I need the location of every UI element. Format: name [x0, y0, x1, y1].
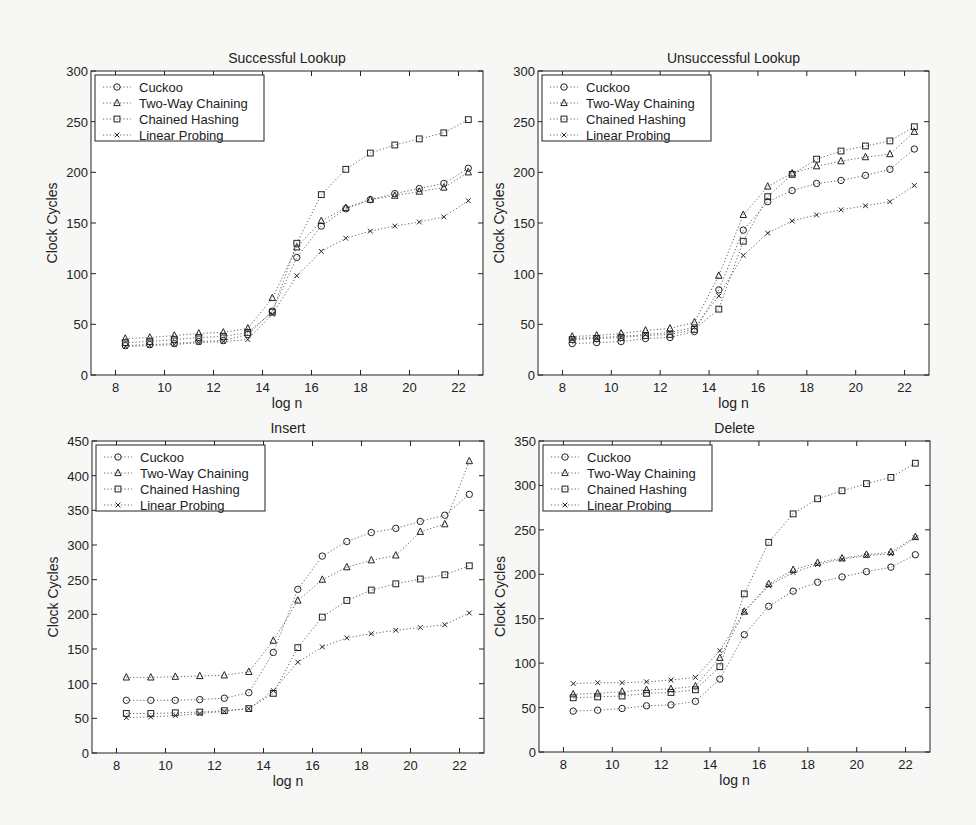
chart-successful-lookup: Successful Lookup81012141618202205010015… [0, 0, 488, 412]
x-tick-label: 12 [654, 757, 668, 772]
y-tick-label: 300 [66, 64, 88, 79]
y-axis-label: Clock Cycles [491, 183, 507, 264]
x-tick-label: 20 [402, 380, 416, 395]
chart-title: Successful Lookup [228, 50, 346, 66]
x-tick-label: 22 [897, 380, 911, 395]
x-tick-label: 8 [112, 380, 119, 395]
y-tick-label: 150 [66, 216, 88, 231]
x-tick-label: 20 [848, 380, 862, 395]
legend-label: Linear Probing [587, 498, 672, 513]
y-axis-label: Clock Cycles [45, 557, 61, 638]
x-tick-label: 10 [158, 758, 172, 773]
y-tick-label: 100 [514, 656, 536, 671]
legend-label: Linear Probing [140, 498, 225, 513]
x-tick-label: 18 [353, 380, 367, 395]
chart-svg: Successful Lookup81012141618202205010015… [0, 0, 488, 412]
y-tick-label: 50 [74, 317, 88, 332]
legend-label: Cuckoo [140, 450, 184, 465]
x-tick-label: 14 [702, 380, 716, 395]
y-tick-label: 200 [514, 567, 536, 582]
x-axis-label: log n [719, 772, 749, 788]
chart-title: Unsuccessful Lookup [667, 50, 800, 66]
x-tick-label: 8 [559, 380, 566, 395]
y-tick-label: 0 [528, 368, 535, 383]
x-axis-label: log n [272, 395, 302, 411]
x-tick-label: 16 [305, 758, 319, 773]
y-tick-label: 450 [67, 434, 89, 449]
y-tick-label: 50 [75, 711, 89, 726]
chart-delete: Delete8101214161820220501001502002503003… [488, 412, 976, 825]
x-tick-label: 14 [256, 758, 270, 773]
y-tick-label: 250 [513, 115, 535, 130]
legend-label: Chained Hashing [586, 112, 686, 127]
y-tick-label: 350 [514, 434, 536, 449]
y-axis-label: Clock Cycles [44, 183, 60, 264]
y-tick-label: 0 [529, 745, 536, 760]
y-tick-label: 300 [513, 64, 535, 79]
legend-label: Linear Probing [586, 128, 671, 143]
x-tick-label: 12 [206, 380, 220, 395]
x-tick-label: 12 [207, 758, 221, 773]
legend: CuckooTwo-Way ChainingChained HashingLin… [543, 445, 712, 513]
y-tick-label: 0 [81, 368, 88, 383]
x-tick-label: 16 [751, 380, 765, 395]
x-tick-label: 18 [800, 380, 814, 395]
x-axis-label: log n [273, 773, 303, 789]
x-axis-label: log n [718, 395, 748, 411]
x-tick-label: 16 [752, 757, 766, 772]
x-tick-label: 10 [604, 380, 618, 395]
chart-insert: Insert8101214161820220501001502002503003… [0, 412, 488, 825]
legend-label: Two-Way Chaining [140, 466, 249, 481]
chart-title: Insert [270, 420, 305, 436]
chart-unsuccessful-lookup: Unsuccessful Lookup810121416182022050100… [488, 0, 976, 412]
y-tick-label: 150 [67, 642, 89, 657]
y-tick-label: 50 [522, 701, 536, 716]
y-tick-label: 350 [67, 503, 89, 518]
legend: CuckooTwo-Way ChainingChained HashingLin… [542, 75, 711, 143]
x-tick-label: 14 [255, 380, 269, 395]
y-axis-label: Clock Cycles [492, 556, 508, 637]
x-tick-label: 14 [703, 757, 717, 772]
y-tick-label: 300 [514, 478, 536, 493]
legend-label: Chained Hashing [139, 112, 239, 127]
legend-label: Cuckoo [139, 80, 183, 95]
y-tick-label: 200 [67, 607, 89, 622]
y-tick-label: 150 [513, 216, 535, 231]
x-tick-label: 8 [560, 757, 567, 772]
y-tick-label: 100 [67, 677, 89, 692]
legend: CuckooTwo-Way ChainingChained HashingLin… [95, 75, 264, 143]
y-tick-label: 100 [513, 267, 535, 282]
y-tick-label: 250 [67, 573, 89, 588]
y-tick-label: 300 [67, 538, 89, 553]
chart-svg: Insert8101214161820220501001502002503003… [0, 412, 488, 825]
y-tick-label: 150 [514, 612, 536, 627]
x-tick-label: 12 [653, 380, 667, 395]
legend-label: Chained Hashing [587, 482, 687, 497]
y-tick-label: 400 [67, 469, 89, 484]
x-tick-label: 10 [605, 757, 619, 772]
chart-svg: Delete8101214161820220501001502002503003… [488, 412, 976, 825]
chart-title: Delete [714, 420, 755, 436]
x-tick-label: 16 [304, 380, 318, 395]
x-tick-label: 22 [451, 380, 465, 395]
legend-label: Linear Probing [139, 128, 224, 143]
x-tick-label: 22 [898, 757, 912, 772]
x-tick-label: 20 [849, 757, 863, 772]
y-tick-label: 250 [514, 523, 536, 538]
y-tick-label: 200 [66, 165, 88, 180]
legend: CuckooTwo-Way ChainingChained HashingLin… [96, 445, 265, 513]
legend-label: Two-Way Chaining [587, 466, 696, 481]
x-tick-label: 8 [113, 758, 120, 773]
x-tick-label: 10 [157, 380, 171, 395]
y-tick-label: 250 [66, 115, 88, 130]
x-tick-label: 22 [452, 758, 466, 773]
legend-label: Two-Way Chaining [586, 96, 695, 111]
x-tick-label: 20 [403, 758, 417, 773]
legend-label: Cuckoo [587, 450, 631, 465]
y-tick-label: 0 [82, 746, 89, 761]
x-tick-label: 18 [801, 757, 815, 772]
chart-svg: Unsuccessful Lookup810121416182022050100… [488, 0, 976, 412]
legend-label: Cuckoo [586, 80, 630, 95]
legend-label: Chained Hashing [140, 482, 240, 497]
y-tick-label: 100 [66, 267, 88, 282]
